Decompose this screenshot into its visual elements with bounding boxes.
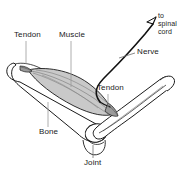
label-muscle: Muscle: [59, 31, 85, 40]
tendon-proximal: [20, 66, 32, 72]
label-to-spinal-cord-line3: cord: [158, 28, 177, 36]
label-bone: Bone: [39, 128, 58, 137]
label-to-spinal-cord-line1: to: [158, 12, 177, 20]
label-nerve: Nerve: [137, 48, 159, 57]
anatomy-illustration: [0, 0, 177, 173]
label-tendon-left: Tendon: [14, 31, 41, 40]
anatomy-diagram: Tendon Muscle Tendon Nerve Bone Joint to…: [0, 0, 177, 173]
label-tendon-right: Tendon: [97, 84, 124, 93]
label-joint: Joint: [84, 159, 101, 168]
label-to-spinal-cord: to spinal cord: [158, 12, 177, 36]
label-to-spinal-cord-line2: spinal: [158, 20, 177, 28]
